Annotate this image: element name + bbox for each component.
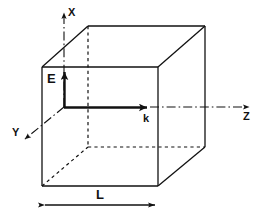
cube-hidden-edges [42, 26, 205, 186]
dimension-L-label: L [96, 187, 104, 202]
z-axis-label: Z [243, 110, 250, 122]
cube-edge-oblique-top-right [158, 26, 205, 67]
cube-visible-edges [42, 26, 205, 186]
e-field-label: E [47, 71, 56, 86]
k-vector-label: k [143, 112, 150, 124]
diagram-canvas: X Y Z E k L [0, 0, 261, 216]
x-axis-label: X [68, 6, 76, 18]
y-axis-line [25, 107, 64, 139]
y-axis-label: Y [12, 126, 20, 138]
cube-hidden-edge-oblique-bottom-left [42, 147, 88, 186]
coordinate-axes [25, 13, 249, 139]
physics-diagram-figure: X Y Z E k L [0, 0, 261, 216]
cube-edge-oblique-bottom-right [158, 147, 205, 186]
cube-edge-oblique-top-left [42, 26, 88, 67]
field-vectors [64, 72, 147, 108]
